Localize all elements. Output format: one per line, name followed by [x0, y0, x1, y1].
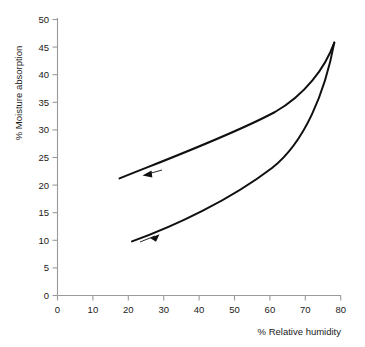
y-tick-label-0: 0	[44, 290, 49, 301]
y-tick-label-30: 30	[38, 124, 49, 135]
desorption-curve	[120, 43, 335, 179]
desorption-arrow-head	[143, 171, 153, 178]
y-tick-label-5: 5	[44, 262, 49, 273]
y-tick-label-15: 15	[38, 207, 49, 218]
y-axis-ticks: 50 45 40 35 30 25 20 15 10 5 0	[38, 14, 57, 301]
adsorption-curve	[132, 43, 334, 242]
x-tick-label-70: 70	[300, 304, 311, 315]
chart-figure: 50 45 40 35 30 25 20 15 10 5 0 0 10 20	[0, 0, 365, 347]
x-tick-label-10: 10	[88, 304, 99, 315]
desorption-arrow	[143, 170, 163, 178]
y-tick-label-40: 40	[38, 69, 49, 80]
y-tick-label-25: 25	[38, 152, 49, 163]
x-tick-label-20: 20	[123, 304, 134, 315]
x-tick-label-40: 40	[194, 304, 205, 315]
adsorption-arrow-head	[150, 234, 160, 242]
y-tick-label-20: 20	[38, 180, 49, 191]
y-tick-label-10: 10	[38, 235, 49, 246]
x-tick-label-0: 0	[55, 304, 60, 315]
x-tick-label-80: 80	[335, 304, 346, 315]
x-tick-label-50: 50	[229, 304, 240, 315]
y-axis-title: % Moisture absorption	[13, 46, 24, 141]
data-curves-group	[120, 43, 335, 242]
x-axis-ticks: 0 10 20 30 40 50 60 70 80	[55, 296, 346, 316]
x-tick-label-30: 30	[158, 304, 169, 315]
axes-group	[58, 18, 342, 296]
x-tick-label-60: 60	[265, 304, 276, 315]
x-axis-title: % Relative humidity	[258, 326, 342, 337]
y-tick-label-50: 50	[38, 14, 49, 25]
y-tick-label-45: 45	[38, 42, 49, 53]
chart-plot-area: 50 45 40 35 30 25 20 15 10 5 0 0 10 20	[0, 0, 365, 347]
y-tick-label-35: 35	[38, 97, 49, 108]
